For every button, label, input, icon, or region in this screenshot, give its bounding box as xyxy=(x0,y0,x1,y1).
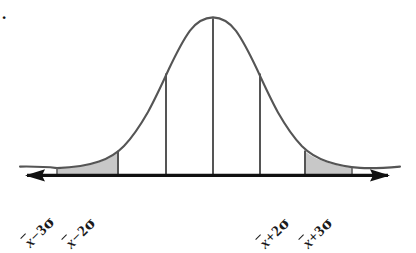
bell-curve-figure xyxy=(0,0,416,253)
axis-arrowhead-left-icon xyxy=(25,169,45,181)
figure-canvas: . x−3σ x−2σ x+2σ x+3σ xyxy=(0,0,416,253)
axis-arrowhead-right-icon xyxy=(370,169,390,181)
normal-curve xyxy=(20,17,400,168)
